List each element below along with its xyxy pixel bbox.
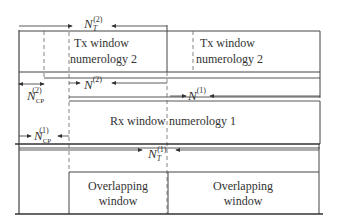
nt2-label: NT(2) — [83, 15, 103, 33]
rx-window-label: Rx window — [110, 114, 166, 128]
overlapping-windows — [15, 172, 323, 214]
ncp2-label: NCP(2) — [26, 86, 44, 105]
ncp1-span-arrow: NCP(1) — [19, 126, 69, 145]
ncp2-span-arrow: NCP(2) — [19, 84, 44, 105]
rx-numerology-label: numerology 1 — [169, 114, 236, 128]
n1-label: N(1) — [187, 86, 206, 103]
overlap-left-line2: window — [99, 194, 138, 208]
tx-window-right-line1: Tx window — [200, 36, 255, 50]
nt1-label: NT(1) — [147, 145, 167, 163]
tx-window-left-line2: numerology 2 — [70, 52, 137, 66]
numerology-window-diagram: NT(2) Tx window numerology 2 Tx window n… — [0, 0, 338, 221]
nt2-span-arrow: NT(2) — [19, 15, 167, 33]
ncp1-label: NCP(1) — [33, 126, 51, 145]
n2-label: N(2) — [83, 75, 102, 92]
tx-window-left-line1: Tx window — [74, 36, 129, 50]
n1-span-arrow: N(1) — [69, 86, 320, 103]
overlap-left-line1: Overlapping — [88, 179, 148, 193]
overlap-right-line1: Overlapping — [213, 179, 273, 193]
overlap-right-line2: window — [224, 194, 263, 208]
tx-window-right-line2: numerology 2 — [196, 52, 263, 66]
n2-span-arrow: N(2) — [44, 72, 320, 98]
